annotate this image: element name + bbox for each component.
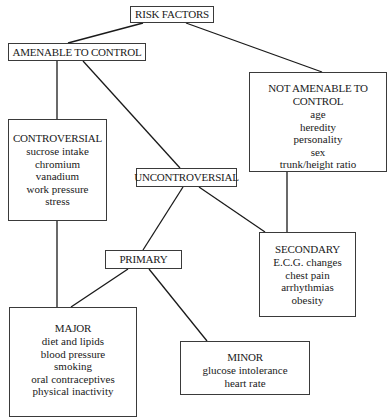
node-controversial: CONTROVERSIAL sucrose intake chromium va…: [8, 119, 107, 221]
node-item: obesity: [260, 294, 355, 307]
node-title: CONTROVERSIAL: [9, 132, 106, 145]
node-title: AMENABLE TO CONTROL: [12, 46, 141, 59]
node-item: blood pressure: [10, 348, 136, 361]
node-title: PRIMARY: [119, 253, 167, 266]
node-item: heart rate: [181, 377, 309, 390]
node-item: sex: [250, 146, 386, 159]
node-title: RISK FACTORS: [135, 8, 209, 21]
node-major: MAJOR diet and lipids blood pressure smo…: [9, 307, 137, 417]
node-item: vanadium: [9, 170, 106, 183]
node-title: MAJOR: [10, 322, 136, 335]
node-secondary: SECONDARY E.C.G. changes chest pain arrh…: [259, 232, 356, 317]
node-item: chromium: [9, 158, 106, 171]
node-item: age: [250, 108, 386, 121]
node-item: personality: [250, 133, 386, 146]
node-minor: MINOR glucose intolerance heart rate: [180, 341, 310, 395]
node-item: diet and lipids: [10, 335, 136, 348]
node-item: smoking: [10, 360, 136, 373]
node-item: heredity: [250, 121, 386, 134]
node-title-line1: NOT AMENABLE TO: [250, 82, 386, 95]
edge-uncontroversial-to-secondary: [199, 187, 265, 232]
node-item: work pressure: [9, 183, 106, 196]
node-item: physical inactivity: [10, 385, 136, 398]
node-title: MINOR: [181, 351, 309, 364]
edge-risk-to-amenable: [68, 23, 143, 43]
node-amenable-to-control: AMENABLE TO CONTROL: [8, 43, 146, 61]
node-item: chest pain: [260, 269, 355, 282]
node-item: sucrose intake: [9, 145, 106, 158]
edge-primary-to-minor: [149, 269, 207, 341]
node-item: trunk/height ratio: [250, 158, 386, 171]
node-item: stress: [9, 195, 106, 208]
edge-primary-to-major: [71, 269, 128, 307]
node-item: glucose intolerance: [181, 364, 309, 377]
node-item: oral contraceptives: [10, 373, 136, 386]
edge-uncontroversial-to-primary: [143, 187, 183, 250]
node-title: UNCONTROVERSIAL: [134, 171, 239, 184]
edge-risk-to-not-amenable: [186, 23, 322, 72]
node-title: SECONDARY: [260, 243, 355, 256]
node-title-line2: CONTROL: [250, 95, 386, 108]
node-not-amenable-to-control: NOT AMENABLE TO CONTROL age heredity per…: [249, 72, 387, 172]
node-item: E.C.G. changes: [260, 256, 355, 269]
node-primary: PRIMARY: [105, 250, 182, 269]
node-risk-factors: RISK FACTORS: [130, 6, 214, 23]
node-uncontroversial: UNCONTROVERSIAL: [136, 168, 237, 187]
node-item: arrhythmias: [260, 281, 355, 294]
